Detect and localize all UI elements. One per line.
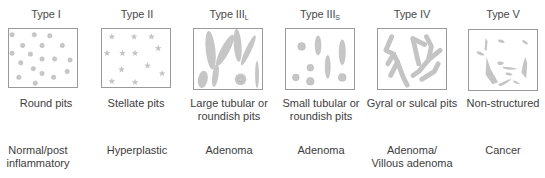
type-label: Type I	[31, 8, 60, 20]
diagnosis: Cancer	[449, 144, 545, 157]
gyral-pits-illustration	[378, 29, 446, 89]
stellate-pit	[119, 50, 126, 56]
type-title: Type I	[0, 8, 92, 20]
diagnosis-line: Normal/post	[0, 144, 92, 157]
non-structured-illustration	[469, 30, 537, 90]
stellate-pit	[131, 33, 138, 39]
stellate-pit	[148, 33, 155, 39]
type-subscript: L	[245, 14, 249, 21]
diagnosis: Normal/post inflammatory	[0, 144, 92, 170]
stellate-pit	[109, 33, 116, 39]
type-title: Type II	[91, 8, 183, 20]
pit-pattern-box-round	[8, 28, 78, 88]
stellate-pit	[104, 50, 111, 56]
diagnosis-line: Cancer	[449, 144, 545, 157]
pit-description: Non-structured	[449, 97, 545, 110]
stellate-pit	[159, 70, 166, 76]
stellate-pit	[155, 45, 162, 51]
type-label: Type IV	[394, 8, 431, 20]
stellate-pit	[132, 50, 139, 56]
pit-pattern-box-gyral	[377, 28, 447, 90]
type-label: Type III	[300, 8, 335, 20]
large-tubular-pits-illustration	[194, 29, 262, 89]
stellate-pit	[144, 62, 151, 68]
type-title: Type IV	[366, 8, 458, 20]
type-title: Type IIIS	[274, 8, 366, 21]
stellate-pit	[118, 66, 125, 72]
pit-description: Stellate pits	[82, 97, 190, 110]
diagnosis-line: Villous adenoma	[358, 157, 466, 170]
round-pits-illustration	[9, 29, 77, 87]
type-label: Type V	[486, 8, 520, 20]
pit-pattern-box-large-tubular	[193, 28, 263, 90]
pit-description-text: Non-structured	[449, 97, 545, 110]
type-title: Type IIIL	[183, 8, 275, 21]
stellate-pits-illustration	[102, 29, 170, 87]
pit-pattern-box-small-tubular	[285, 28, 355, 90]
diagnosis-line: inflammatory	[0, 157, 92, 170]
stellate-pit	[109, 78, 116, 84]
pit-pattern-box-stellate	[101, 28, 171, 88]
type-subscript: S	[335, 14, 340, 21]
type-label: Type III	[209, 8, 244, 20]
type-label: Type II	[121, 8, 153, 20]
type-title: Type V	[457, 8, 545, 20]
pit-pattern-box-non-structured	[468, 29, 538, 91]
stellate-pit	[132, 79, 139, 85]
small-tubular-pits-illustration	[286, 29, 354, 89]
